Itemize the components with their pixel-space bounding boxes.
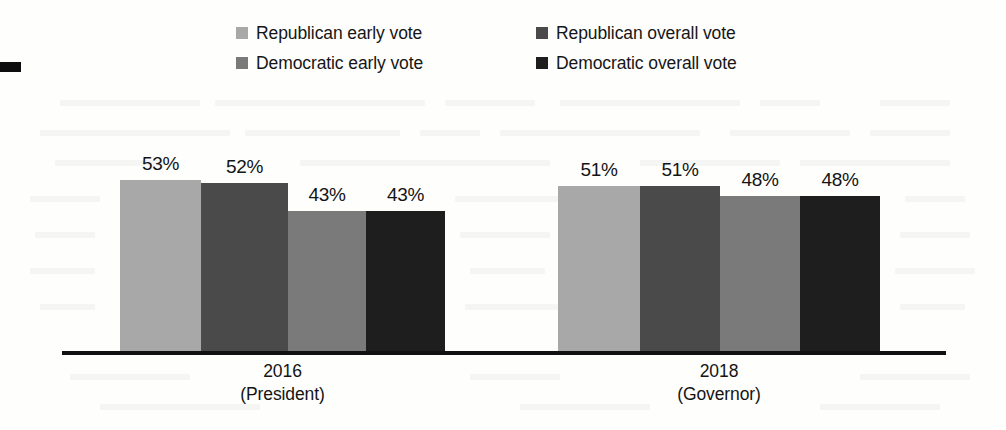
bar-value-label: 53%	[142, 153, 179, 175]
x-axis-label-2016-year: 2016	[120, 360, 445, 383]
bar-2016-democratic-early[interactable]: 43%	[288, 211, 366, 351]
bar-group-2018-bars: 51% 51% 48% 48%	[558, 186, 880, 351]
bar-rect	[720, 196, 800, 351]
legend-item-democratic-overall: Democratic overall vote	[536, 53, 856, 74]
margin-rule-mark	[0, 62, 21, 72]
legend-swatch-republican-early-icon	[236, 27, 248, 39]
chart-legend: Republican early vote Republican overall…	[236, 18, 856, 78]
x-axis-label-2018-office: (Governor)	[558, 383, 880, 406]
x-axis-label-2016-office: (President)	[120, 383, 445, 406]
x-axis-label-2018-year: 2018	[558, 360, 880, 383]
bar-rect	[201, 183, 288, 351]
bar-rect	[366, 211, 445, 351]
bar-value-label: 51%	[580, 159, 617, 181]
bar-rect	[558, 186, 640, 351]
bar-2018-republican-early[interactable]: 51%	[558, 186, 640, 351]
legend-label-democratic-overall: Democratic overall vote	[556, 53, 737, 74]
legend-swatch-republican-overall-icon	[536, 27, 548, 39]
legend-label-republican-early: Republican early vote	[256, 23, 422, 44]
bar-2016-republican-early[interactable]: 53%	[120, 180, 201, 351]
bar-2018-republican-overall[interactable]: 51%	[640, 186, 720, 351]
bar-2018-democratic-early[interactable]: 48%	[720, 196, 800, 351]
bar-value-label: 48%	[821, 169, 858, 191]
bar-2016-republican-overall[interactable]: 52%	[201, 183, 288, 351]
bar-rect	[800, 196, 880, 351]
bar-value-label: 51%	[661, 159, 698, 181]
bar-value-label: 43%	[387, 184, 424, 206]
bar-2016-democratic-overall[interactable]: 43%	[366, 211, 445, 351]
legend-swatch-democratic-early-icon	[236, 57, 248, 69]
legend-item-democratic-early: Democratic early vote	[236, 53, 536, 74]
x-axis-label-2016: 2016 (President)	[120, 360, 445, 406]
bar-group-2016-bars: 53% 52% 43% 43%	[120, 180, 445, 351]
legend-label-republican-overall: Republican overall vote	[556, 23, 736, 44]
legend-swatch-democratic-overall-icon	[536, 57, 548, 69]
bar-2018-democratic-overall[interactable]: 48%	[800, 196, 880, 351]
legend-item-republican-overall: Republican overall vote	[536, 23, 856, 44]
bar-value-label: 43%	[308, 184, 345, 206]
bar-rect	[640, 186, 720, 351]
bar-rect	[120, 180, 201, 351]
bar-rect	[288, 211, 366, 351]
x-axis-label-2018: 2018 (Governor)	[558, 360, 880, 406]
legend-item-republican-early: Republican early vote	[236, 23, 536, 44]
bar-value-label: 52%	[226, 156, 263, 178]
bar-value-label: 48%	[741, 169, 778, 191]
legend-label-democratic-early: Democratic early vote	[256, 53, 423, 74]
